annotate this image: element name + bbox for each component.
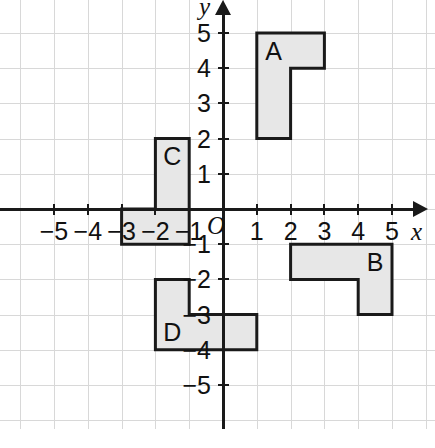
x-axis-tick [323, 204, 325, 215]
x-tick-label: 3 [317, 219, 331, 244]
x-axis-tick [121, 204, 123, 215]
x-axis-tick [154, 204, 156, 215]
shape-label-c: C [163, 144, 181, 169]
y-axis-arrow-icon [215, 0, 231, 15]
y-tick-label: 1 [197, 161, 211, 186]
y-axis-tick [218, 314, 229, 316]
y-tick-label: 5 [197, 21, 211, 46]
shape-label-d: D [163, 320, 181, 345]
x-axis-tick [391, 204, 393, 215]
y-axis-tick [218, 349, 229, 351]
y-axis-tick [218, 102, 229, 104]
shape-label-b: B [367, 249, 384, 274]
x-tick-label: 1 [250, 219, 264, 244]
x-tick-label: −2 [141, 219, 170, 244]
coordinate-plane-figure: −5−4−3−2−11234554321−1−2−3−4−5OxyABCD [0, 0, 435, 448]
x-axis-tick [290, 204, 292, 215]
y-axis-tick [218, 138, 229, 140]
y-tick-label: −5 [182, 373, 211, 398]
origin-label: O [207, 213, 225, 238]
y-tick-label: 4 [197, 56, 211, 81]
y-tick-label: −2 [182, 267, 211, 292]
x-axis-tick [53, 204, 55, 215]
y-tick-label: 2 [197, 126, 211, 151]
x-axis-tick [357, 204, 359, 215]
y-tick-label: −3 [182, 302, 211, 327]
x-axis-tick [188, 204, 190, 215]
x-tick-label: −3 [107, 219, 136, 244]
y-axis-tick [218, 173, 229, 175]
x-tick-label: −5 [40, 219, 69, 244]
x-axis-tick [87, 204, 89, 215]
shape-label-a: A [265, 38, 282, 63]
x-axis-arrow-icon [413, 201, 428, 217]
x-axis-name-label: x [411, 219, 422, 244]
y-axis-tick [218, 32, 229, 34]
y-axis-tick [218, 384, 229, 386]
x-tick-label: 4 [351, 219, 365, 244]
x-tick-label: −4 [74, 219, 103, 244]
x-tick-label: 5 [385, 219, 399, 244]
y-tick-label: 3 [197, 91, 211, 116]
x-axis-line [0, 208, 415, 211]
y-axis-tick [218, 243, 229, 245]
x-tick-label: 2 [284, 219, 298, 244]
y-axis-tick [218, 67, 229, 69]
x-axis-tick [256, 204, 258, 215]
y-tick-label: −4 [182, 337, 211, 362]
y-axis-name-label: y [199, 0, 210, 19]
y-axis-tick [218, 278, 229, 280]
